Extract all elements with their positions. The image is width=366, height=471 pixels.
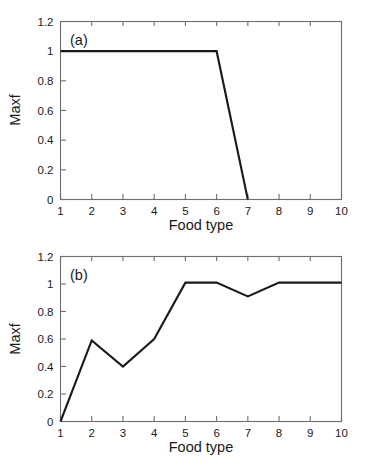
data-series-line-b bbox=[61, 283, 342, 422]
y-ticklabel: 0 bbox=[47, 194, 53, 206]
chart-svg-a: 00.20.40.60.811.2 12345678910 Food type … bbox=[0, 0, 366, 236]
y-ticklabel: 0.6 bbox=[38, 105, 54, 117]
x-ticklabel: 9 bbox=[307, 427, 313, 439]
x-ticklabel: 1 bbox=[57, 427, 63, 439]
y-ticklabel: 1 bbox=[47, 278, 53, 290]
x-ticklabel: 4 bbox=[151, 427, 158, 439]
x-ticklabel: 6 bbox=[213, 205, 219, 217]
chart-panel-a: 00.20.40.60.811.2 12345678910 Food type … bbox=[0, 0, 366, 236]
x-ticklabel: 1 bbox=[57, 205, 63, 217]
x-ticklabels-a: 12345678910 bbox=[57, 205, 348, 217]
x-ticklabel: 5 bbox=[182, 427, 188, 439]
plot-frame-a bbox=[61, 22, 342, 200]
x-ticklabel: 2 bbox=[89, 427, 95, 439]
x-ticklabels-b: 12345678910 bbox=[57, 427, 348, 439]
data-series-line-a bbox=[61, 51, 248, 199]
y-ticklabel: 0.8 bbox=[38, 306, 54, 318]
chart-panel-b: 00.20.40.60.811.2 12345678910 Food type … bbox=[0, 235, 366, 471]
panel-tag-a: (a) bbox=[70, 32, 88, 48]
x-ticklabel: 4 bbox=[151, 205, 158, 217]
plot-frame-b bbox=[61, 257, 342, 422]
y-axis-label-b: Maxf bbox=[7, 322, 23, 354]
x-ticklabel: 10 bbox=[335, 205, 348, 217]
chart-svg-b: 00.20.40.60.811.2 12345678910 Food type … bbox=[0, 235, 366, 471]
y-ticklabel: 0.2 bbox=[38, 388, 54, 400]
x-ticklabel: 10 bbox=[335, 427, 348, 439]
x-ticklabel: 7 bbox=[245, 427, 251, 439]
y-ticklabels-b: 00.20.40.60.811.2 bbox=[38, 251, 55, 428]
y-ticklabel: 1.2 bbox=[38, 251, 54, 263]
y-ticklabel: 0.2 bbox=[38, 164, 54, 176]
y-ticklabel: 1.2 bbox=[38, 16, 54, 28]
figure-container: 00.20.40.60.811.2 12345678910 Food type … bbox=[0, 0, 366, 471]
y-ticks-b bbox=[61, 257, 66, 422]
x-axis-label-b: Food type bbox=[169, 439, 234, 455]
x-ticklabel: 6 bbox=[213, 427, 219, 439]
y-axis-label-a: Maxf bbox=[7, 93, 23, 125]
x-ticklabel: 9 bbox=[307, 205, 313, 217]
y-ticklabel: 0 bbox=[47, 416, 53, 428]
x-ticklabel: 5 bbox=[182, 205, 188, 217]
panel-tag-b: (b) bbox=[70, 267, 88, 283]
x-ticks-a bbox=[61, 22, 342, 199]
y-ticklabel: 0.8 bbox=[38, 75, 54, 87]
y-ticklabel: 1 bbox=[47, 45, 53, 57]
x-ticklabel: 7 bbox=[245, 205, 251, 217]
x-ticklabel: 8 bbox=[276, 205, 282, 217]
y-ticklabel: 0.4 bbox=[38, 134, 55, 146]
y-ticklabels-a: 00.20.40.60.811.2 bbox=[38, 16, 55, 206]
x-ticklabel: 3 bbox=[120, 205, 126, 217]
y-ticklabel: 0.4 bbox=[38, 361, 55, 373]
x-ticklabel: 2 bbox=[89, 205, 95, 217]
x-ticklabel: 8 bbox=[276, 427, 282, 439]
y-ticklabel: 0.6 bbox=[38, 333, 54, 345]
x-axis-label-a: Food type bbox=[169, 217, 234, 233]
x-ticklabel: 3 bbox=[120, 427, 126, 439]
y-ticks-a bbox=[61, 22, 66, 200]
